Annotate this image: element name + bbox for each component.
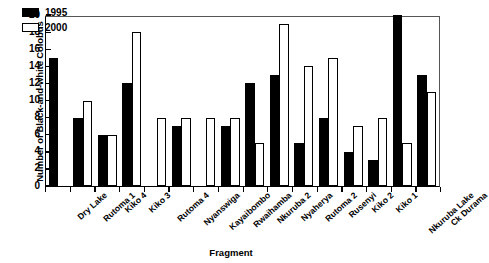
bar-group [243,17,268,186]
bar-group [120,17,145,186]
bar-group [193,17,218,186]
bar-group [390,17,415,186]
bar-1995 [98,135,108,186]
bar-2000 [328,58,338,186]
x-axis-label: Kiko 1 [394,190,420,215]
legend: 1995 2000 [22,6,67,36]
bar-group [365,17,390,186]
y-tick-label: 14 [29,60,40,71]
bar-series-container [46,17,439,186]
x-axis-label: Kiko 3 [147,190,173,215]
bar-1995 [294,143,304,186]
y-tick-label: 12 [29,77,40,88]
bar-2000 [378,118,388,186]
bar-group [144,17,169,186]
bar-group [71,17,96,186]
plot-area: 02468101214161820 [45,16,440,187]
y-tick-label: 16 [29,43,40,54]
bar-2000 [230,118,240,186]
bar-1995 [393,15,403,186]
bar-2000 [132,32,142,186]
legend-item-1995: 1995 [22,6,67,19]
y-tick-label: 8 [34,111,40,122]
bar-2000 [353,126,363,186]
legend-item-2000: 2000 [22,21,67,34]
y-tick-label: 6 [34,128,40,139]
bar-group [169,17,194,186]
bar-1995 [172,126,182,186]
bar-group [414,17,439,186]
bar-1995 [221,126,231,186]
bar-group [218,17,243,186]
bar-1995 [245,83,255,186]
bar-group [292,17,317,186]
bar-1995 [270,75,280,186]
y-tick-label: 4 [34,145,40,156]
bar-1995 [417,75,427,186]
x-tick-mark [440,187,441,192]
x-axis-labels: Dry LakeRutoma 1Kiko 4Kiko 3Rutoma 4Nyan… [45,190,440,252]
bar-2000 [255,143,265,186]
bar-2000 [107,135,117,186]
bar-group [341,17,366,186]
bar-2000 [427,92,437,186]
bar-1995 [49,58,59,186]
legend-swatch-1995 [22,8,39,17]
bar-1995 [122,83,132,186]
y-tick-label: 10 [29,94,40,105]
bar-2000 [304,66,314,186]
bar-2000 [181,118,191,186]
bar-1995 [344,152,354,186]
bar-1995 [319,118,329,186]
bar-2000 [206,118,216,186]
y-tick-label: 0 [34,180,40,191]
bar-group [46,17,71,186]
legend-label-1995: 1995 [45,8,67,18]
legend-label-2000: 2000 [45,23,67,33]
bar-group [267,17,292,186]
bar-2000 [279,24,289,186]
x-axis-title: Fragment [0,247,462,258]
bar-1995 [368,160,378,186]
bar-1995 [73,118,83,186]
bar-2000 [157,118,167,186]
bar-group [95,17,120,186]
bar-group [316,17,341,186]
bar-2000 [83,101,93,187]
legend-swatch-2000 [22,23,39,32]
y-tick-label: 2 [34,162,40,173]
bar-2000 [402,143,412,186]
